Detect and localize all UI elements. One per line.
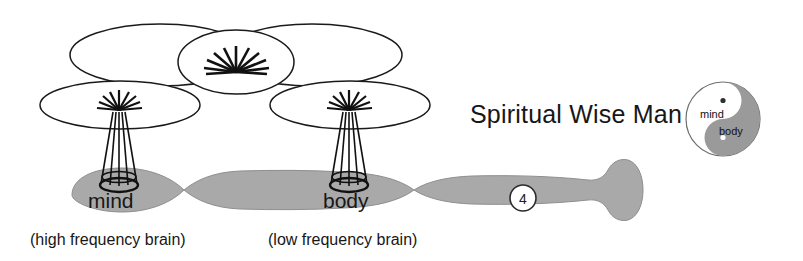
yin-yang-mind-label: mind: [700, 108, 724, 120]
caption-high-frequency-brain: (high frequency brain): [30, 231, 186, 249]
spiritual-wise-man-title: Spiritual Wise Man: [470, 100, 682, 129]
yin-yang-body-label: body: [719, 125, 743, 137]
caption-low-frequency-brain: (low frequency brain): [268, 231, 417, 249]
diagram-svg: [0, 0, 803, 261]
mind-label: mind: [88, 189, 134, 213]
body-label: body: [323, 189, 369, 213]
figure-canvas: mind body (high frequency brain) (low fr…: [0, 0, 803, 261]
step-badge-number: 4: [513, 191, 533, 207]
